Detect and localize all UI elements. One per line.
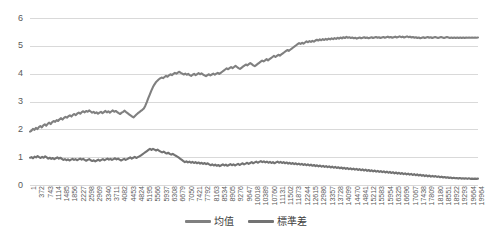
x-axis-tick-label: 8163 — [213, 186, 220, 202]
x-axis-tick-label: 1856 — [71, 186, 78, 202]
x-axis-tick-label: 17809 — [428, 186, 435, 205]
x-axis-tick-label: 19664 — [470, 186, 477, 205]
x-axis-tick-label: 14099 — [345, 186, 352, 205]
x-axis-tick-label: 743 — [47, 186, 54, 198]
x-axis-tick-label: 4082 — [121, 186, 128, 202]
x-axis: 1372743111414851856222725982969334037114… — [30, 186, 478, 218]
x-axis-tick-label: 7792 — [204, 186, 211, 202]
legend-label: 標準差 — [277, 216, 307, 227]
series-line — [30, 36, 478, 131]
y-axis-tick-label: 1 — [18, 153, 23, 162]
x-axis-tick-label: 9647 — [246, 186, 253, 202]
x-axis-tick-label: 12244 — [304, 186, 311, 205]
x-axis-tick-label: 5566 — [154, 186, 161, 202]
x-axis-tick-label: 2227 — [80, 186, 87, 202]
x-axis-tick-label: 6308 — [171, 186, 178, 202]
legend-item[interactable]: 均值 — [185, 216, 234, 227]
y-axis-tick-label: 0 — [18, 181, 23, 190]
chart-legend: 均值標準差 — [0, 216, 491, 227]
x-axis-tick-label: 17438 — [420, 186, 427, 205]
x-axis-tick-label: 15212 — [370, 186, 377, 205]
x-axis-tick-label: 3711 — [113, 186, 120, 201]
x-axis-tick-label: 12986 — [320, 186, 327, 205]
x-axis-tick-label: 4453 — [130, 186, 137, 202]
x-axis-tick-label: 8534 — [221, 186, 228, 202]
legend-label: 均值 — [214, 216, 234, 227]
plot-area — [30, 18, 478, 185]
x-axis-tick-label: 13728 — [337, 186, 344, 205]
x-axis-tick-label: 4824 — [138, 186, 145, 202]
x-axis-tick-label: 18180 — [437, 186, 444, 205]
x-axis-tick-label: 8905 — [229, 186, 236, 202]
y-axis-tick-label: 5 — [18, 41, 23, 50]
x-axis-tick-label: 11873 — [295, 186, 302, 205]
y-axis-tick-label: 4 — [18, 69, 23, 78]
x-axis-tick-label: 19293 — [461, 186, 468, 205]
x-axis-tick-label: 7050 — [188, 186, 195, 202]
x-axis-tick-label: 2969 — [96, 186, 103, 202]
x-axis-tick-label: 18551 — [445, 186, 452, 205]
x-axis-tick-label: 6679 — [179, 186, 186, 202]
x-axis-tick-label: 17067 — [412, 186, 419, 205]
x-axis-tick-label: 372 — [38, 186, 45, 198]
y-axis-tick-label: 2 — [18, 125, 23, 134]
x-axis-tick-label: 19964 — [478, 186, 485, 205]
x-axis-tick-label: 10018 — [254, 186, 261, 205]
x-axis-tick-label: 7421 — [196, 186, 203, 202]
line-chart: 0123456 13727431114148518562227259829693… — [0, 0, 491, 235]
x-axis-tick-label: 10760 — [271, 186, 278, 205]
series-line — [30, 149, 478, 179]
x-axis-tick-label: 3340 — [105, 186, 112, 202]
series-layer — [30, 18, 478, 185]
x-axis-tick-label: 9276 — [237, 186, 244, 202]
x-axis-tick-label: 2598 — [88, 186, 95, 202]
x-axis-tick-label: 10389 — [262, 186, 269, 205]
x-axis-tick-label: 15954 — [387, 186, 394, 205]
x-axis-tick-label: 11131 — [279, 186, 286, 204]
legend-line-swatch — [185, 220, 211, 223]
x-axis-tick-label: 12615 — [312, 186, 319, 205]
y-axis-tick-label: 3 — [18, 97, 23, 106]
x-axis-tick-label: 16325 — [395, 186, 402, 205]
x-axis-tick-label: 11502 — [287, 186, 294, 205]
x-axis-tick-label: 16696 — [403, 186, 410, 205]
x-axis-tick-label: 1485 — [63, 186, 70, 202]
x-axis-tick-label: 18922 — [453, 186, 460, 205]
x-axis-tick-label: 14841 — [362, 186, 369, 205]
x-axis-tick-label: 1114 — [55, 186, 62, 201]
x-axis-tick-label: 5195 — [146, 186, 153, 202]
x-axis-tick-label: 14470 — [354, 186, 361, 205]
legend-line-swatch — [248, 220, 274, 223]
x-axis-tick-label: 13357 — [329, 186, 336, 205]
x-axis-tick-label: 15583 — [378, 186, 385, 205]
y-axis-tick-label: 6 — [18, 14, 23, 23]
legend-item[interactable]: 標準差 — [248, 216, 307, 227]
x-axis-tick-label: 1 — [30, 186, 37, 190]
y-axis: 0123456 — [0, 0, 30, 195]
x-axis-tick-label: 5937 — [163, 186, 170, 202]
